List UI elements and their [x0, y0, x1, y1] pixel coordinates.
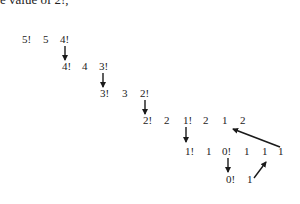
arrow-up-left-icon [233, 129, 280, 147]
arrows-layer [0, 0, 300, 204]
arrow-up-right-icon [254, 162, 266, 178]
factorial-recursion-diagram: 5! 5 4! 4! 4 3! 3! 3 2! 2! 2 1! 2 1 2 1!… [0, 0, 300, 204]
